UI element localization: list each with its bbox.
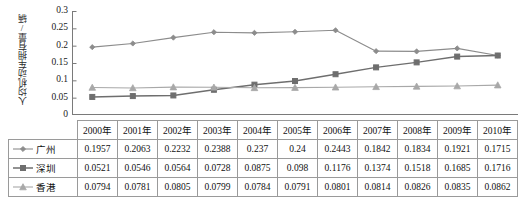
table-cell: 0.2388 [198, 140, 238, 159]
y-axis-tick-label: 0.05 [51, 93, 68, 103]
legend-label: 广州 [36, 142, 56, 156]
table-cell: 0.1842 [358, 140, 398, 159]
table-cell: 0.0862 [478, 178, 518, 197]
table-cell: 0.0784 [238, 178, 278, 197]
table-cell: 0.1834 [398, 140, 438, 159]
legend-marker-diamond-icon [12, 144, 34, 154]
legend-swatch [12, 163, 34, 173]
table-column-header: 2007年 [358, 121, 398, 140]
data-point-marker [211, 30, 216, 35]
legend-label: 香港 [36, 180, 56, 194]
chart-figure: 人均机动车拥有量/辆 00.050.10.150.20.250.3 2000年2… [0, 0, 525, 205]
legend-marker-square-icon [12, 163, 34, 173]
table-cell: 0.0781 [118, 178, 158, 197]
data-point-marker [130, 94, 135, 99]
data-point-marker [90, 45, 95, 50]
legend-marker-triangle-icon [12, 182, 34, 192]
table-column-header: 2009年 [438, 121, 478, 140]
table-row: 香港0.07940.07810.08050.07990.07840.07910.… [9, 178, 518, 197]
table-cell: 0.2443 [318, 140, 358, 159]
table-header-row: 2000年2001年2002年2003年2004年2005年2006年2007年… [9, 121, 518, 140]
data-point-marker [333, 72, 338, 77]
table-cell: 0.2232 [158, 140, 198, 159]
data-point-marker [130, 41, 135, 46]
data-point-marker [495, 53, 500, 58]
table-column-header: 2008年 [398, 121, 438, 140]
table-column-header: 2004年 [238, 121, 278, 140]
table-cell: 0.237 [238, 140, 278, 159]
table-column-header: 2000年 [78, 121, 118, 140]
data-point-marker [333, 28, 338, 33]
table-cell: 0.0791 [278, 178, 318, 197]
data-point-marker [171, 93, 176, 98]
table-row-header: 香港 [9, 178, 78, 197]
data-point-marker [292, 29, 297, 34]
data-point-marker [252, 30, 257, 35]
table-cell: 0.0546 [118, 159, 158, 178]
data-table-container: 2000年2001年2002年2003年2004年2005年2006年2007年… [8, 120, 517, 198]
table-row: 深圳0.05210.05460.05640.07280.08750.0980.1… [9, 159, 518, 178]
plot-area [72, 11, 518, 115]
table-cell: 0.1685 [438, 159, 478, 178]
table-cell: 0.1176 [318, 159, 358, 178]
table-corner-cell [9, 121, 78, 140]
y-axis-title: 人均机动车拥有量/辆 [14, 6, 30, 114]
series-广州 [90, 28, 501, 58]
table-cell: 0.0835 [438, 178, 478, 197]
data-point-marker [455, 46, 460, 51]
table-cell: 0.1518 [398, 159, 438, 178]
table-row-header: 深圳 [9, 159, 78, 178]
data-point-marker [90, 94, 95, 99]
table-cell: 0.0564 [158, 159, 198, 178]
table-column-header: 2002年 [158, 121, 198, 140]
legend-entry: 深圳 [9, 161, 77, 175]
line-chart: 人均机动车拥有量/辆 00.050.10.150.20.250.3 [0, 0, 525, 120]
y-axis-tick-labels: 00.050.10.150.20.250.3 [30, 0, 68, 120]
table-cell: 0.0801 [318, 178, 358, 197]
table-column-header: 2010年 [478, 121, 518, 140]
legend-label: 深圳 [36, 161, 56, 175]
table-cell: 0.0805 [158, 178, 198, 197]
data-point-marker [171, 35, 176, 40]
y-axis-tick-label: 0.1 [56, 75, 68, 85]
data-point-marker [21, 166, 26, 171]
table-cell: 0.0826 [398, 178, 438, 197]
table-cell: 0.1957 [78, 140, 118, 159]
table-cell: 0.0875 [238, 159, 278, 178]
table-cell: 0.1921 [438, 140, 478, 159]
table-cell: 0.0728 [198, 159, 238, 178]
table-cell: 0.1374 [358, 159, 398, 178]
legend-entry: 广州 [9, 142, 77, 156]
table-cell: 0.1715 [478, 140, 518, 159]
table-column-header: 2005年 [278, 121, 318, 140]
y-axis-tick-label: 0 [63, 110, 68, 120]
table-row: 广州0.19570.20630.22320.23880.2370.240.244… [9, 140, 518, 159]
table-column-header: 2003年 [198, 121, 238, 140]
data-point-marker [374, 65, 379, 70]
data-table: 2000年2001年2002年2003年2004年2005年2006年2007年… [8, 120, 518, 197]
table-cell: 0.0814 [358, 178, 398, 197]
legend-swatch [12, 144, 34, 154]
series-canvas [72, 11, 518, 115]
table-cell: 0.2063 [118, 140, 158, 159]
series-深圳 [90, 53, 500, 99]
table-cell: 0.098 [278, 159, 318, 178]
table-row-header: 广州 [9, 140, 78, 159]
table-cell: 0.0794 [78, 178, 118, 197]
legend-swatch [12, 182, 34, 192]
table-column-header: 2001年 [118, 121, 158, 140]
data-point-marker [455, 54, 460, 59]
table-body: 广州0.19570.20630.22320.23880.2370.240.244… [9, 140, 518, 197]
table-cell: 0.0799 [198, 178, 238, 197]
y-axis-tick-label: 0.2 [56, 41, 68, 51]
table-cell: 0.0521 [78, 159, 118, 178]
data-point-marker [414, 60, 419, 65]
table-column-header: 2006年 [318, 121, 358, 140]
data-point-marker [293, 79, 298, 84]
data-point-marker [373, 49, 378, 54]
data-point-marker [20, 146, 25, 151]
table-cell: 0.24 [278, 140, 318, 159]
legend-entry: 香港 [9, 180, 77, 194]
y-axis-tick-label: 0.3 [56, 6, 68, 16]
y-axis-tick-label: 0.15 [51, 58, 68, 68]
